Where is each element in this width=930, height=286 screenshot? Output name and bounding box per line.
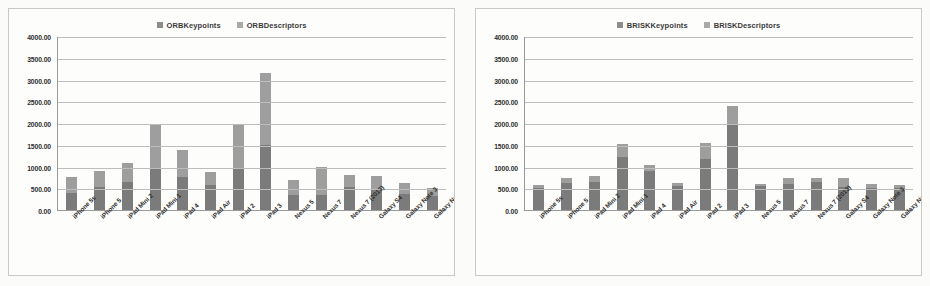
bar-segment-descriptors[interactable]: [727, 106, 738, 126]
y-axis-tick-label: 1500.00: [494, 142, 518, 149]
bar-segment-keypoints[interactable]: [783, 184, 794, 210]
bar-segment-descriptors[interactable]: [288, 180, 299, 195]
y-axis-tick-label: 4000.00: [27, 34, 51, 41]
gridline: [525, 81, 913, 82]
bar-segment-descriptors[interactable]: [94, 171, 105, 187]
stacked-bar[interactable]: [727, 106, 738, 210]
bar-segment-keypoints[interactable]: [617, 157, 628, 210]
plot-area-orb: 0.00500.001000.001500.002000.002500.0030…: [9, 37, 448, 275]
legend-item-orb-descriptors: ORBDescriptors: [237, 21, 307, 30]
gridline: [58, 59, 446, 60]
x-axis-brisk: iPhone 5siPhone 5iPad Mini 2iPad Mini 1i…: [524, 213, 913, 276]
stacked-bar[interactable]: [700, 143, 711, 210]
y-axis-tick-label: 3500.00: [27, 55, 51, 62]
y-axis-tick-label: 1000.00: [494, 164, 518, 171]
stacked-bar[interactable]: [122, 163, 133, 210]
stacked-bar[interactable]: [344, 175, 355, 210]
gridline: [58, 37, 446, 38]
stacked-bar[interactable]: [617, 144, 628, 210]
bar-segment-descriptors[interactable]: [122, 163, 133, 181]
legend-item-brisk-descriptors: BRISKDescriptors: [704, 21, 781, 30]
y-axis-tick-label: 4000.00: [494, 34, 518, 41]
stacked-bar[interactable]: [811, 178, 822, 210]
chart-card-orb: ORBKeypoints ORBDescriptors 0.00500.0010…: [8, 8, 455, 276]
stacked-bar[interactable]: [561, 178, 572, 210]
legend-swatch-icon: [157, 22, 163, 28]
y-axis-tick-label: 2500.00: [494, 99, 518, 106]
gridline: [58, 168, 446, 169]
y-axis-tick-label: 3500.00: [494, 55, 518, 62]
bar-segment-descriptors[interactable]: [205, 172, 216, 185]
legend-label: ORBDescriptors: [247, 21, 307, 30]
legend-label: ORBKeypoints: [167, 21, 221, 30]
gridline: [525, 146, 913, 147]
y-axis-tick-label: 1000.00: [27, 164, 51, 171]
stacked-bar[interactable]: [783, 178, 794, 210]
gridline: [58, 102, 446, 103]
legend-label: BRISKKeypoints: [627, 21, 688, 30]
gridline: [58, 189, 446, 190]
legend-swatch-icon: [704, 22, 710, 28]
y-axis-tick-label: 2000.00: [494, 121, 518, 128]
stacked-bar[interactable]: [644, 165, 655, 210]
gridline: [525, 102, 913, 103]
gridline: [525, 189, 913, 190]
bar-segment-keypoints[interactable]: [811, 182, 822, 210]
y-axis-orb: 0.00500.001000.001500.002000.002500.0030…: [9, 37, 55, 211]
y-axis-tick-label: 0.00: [505, 208, 518, 215]
bar-segment-descriptors[interactable]: [344, 175, 355, 187]
bar-segment-keypoints[interactable]: [700, 159, 711, 210]
bar-segment-descriptors[interactable]: [66, 177, 77, 194]
stacked-bar[interactable]: [288, 180, 299, 210]
gridline: [525, 37, 913, 38]
y-axis-brisk: 0.00500.001000.001500.002000.002500.0030…: [476, 37, 522, 211]
legend-orb: ORBKeypoints ORBDescriptors: [9, 18, 454, 32]
legend-item-brisk-keypoints: BRISKKeypoints: [617, 21, 688, 30]
plot-canvas-orb: [57, 37, 446, 211]
y-axis-tick-label: 500.00: [31, 186, 51, 193]
y-axis-tick-label: 1500.00: [27, 142, 51, 149]
gridline: [525, 124, 913, 125]
chart-card-brisk: BRISKKeypoints BRISKDescriptors 0.00500.…: [475, 8, 922, 276]
gridline: [58, 124, 446, 125]
bar-segment-descriptors[interactable]: [260, 73, 271, 145]
gridline: [58, 146, 446, 147]
y-axis-tick-label: 2500.00: [27, 99, 51, 106]
stacked-bar[interactable]: [672, 183, 683, 210]
bar-segment-keypoints[interactable]: [533, 188, 544, 210]
y-axis-tick-label: 500.00: [498, 186, 518, 193]
bar-segment-keypoints[interactable]: [316, 195, 327, 210]
charts-sheet: ORBKeypoints ORBDescriptors 0.00500.0010…: [0, 0, 930, 286]
gridline: [58, 81, 446, 82]
gridline: [525, 59, 913, 60]
y-axis-tick-label: 3000.00: [494, 77, 518, 84]
y-axis-tick-label: 0.00: [38, 208, 51, 215]
bar-segment-keypoints[interactable]: [288, 195, 299, 210]
stacked-bar[interactable]: [94, 171, 105, 210]
stacked-bar[interactable]: [177, 150, 188, 210]
legend-item-orb-keypoints: ORBKeypoints: [157, 21, 221, 30]
plot-canvas-brisk: [524, 37, 913, 211]
bar-segment-descriptors[interactable]: [233, 125, 244, 169]
bar-segment-keypoints[interactable]: [122, 182, 133, 210]
bar-segment-keypoints[interactable]: [644, 171, 655, 210]
legend-label: BRISKDescriptors: [714, 21, 781, 30]
legend-brisk: BRISKKeypoints BRISKDescriptors: [476, 18, 921, 32]
legend-swatch-icon: [617, 22, 623, 28]
bar-segment-descriptors[interactable]: [316, 167, 327, 196]
y-axis-tick-label: 2000.00: [27, 121, 51, 128]
stacked-bar[interactable]: [316, 167, 327, 210]
stacked-bar[interactable]: [205, 172, 216, 210]
x-axis-orb: iPhone 5siPhone 5iPad Mini 2iPad Mini 1i…: [57, 213, 446, 276]
plot-area-brisk: 0.00500.001000.001500.002000.002500.0030…: [476, 37, 915, 275]
gridline: [525, 168, 913, 169]
y-axis-tick-label: 3000.00: [27, 77, 51, 84]
legend-swatch-icon: [237, 22, 243, 28]
bar-segment-keypoints[interactable]: [589, 182, 600, 210]
stacked-bar[interactable]: [66, 177, 77, 210]
stacked-bar[interactable]: [755, 184, 766, 210]
bar-segment-descriptors[interactable]: [177, 150, 188, 177]
stacked-bar[interactable]: [589, 176, 600, 210]
bar-segment-keypoints[interactable]: [260, 145, 271, 210]
bar-segment-keypoints[interactable]: [66, 193, 77, 210]
